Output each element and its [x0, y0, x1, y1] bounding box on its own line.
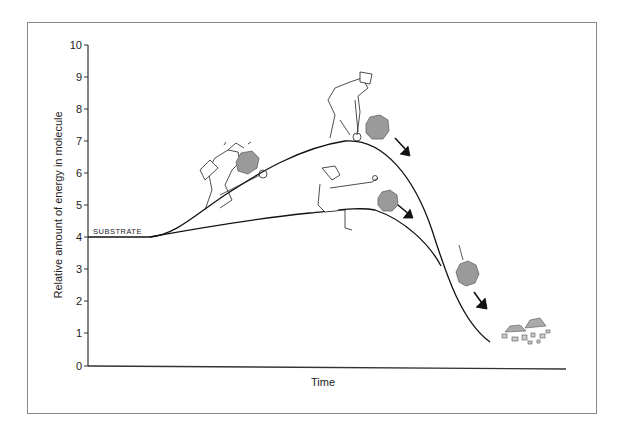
energy-diagram: 10 9 8 7 6 5 4 3 2 1 0 Relative amount o…	[0, 0, 625, 427]
falling-boulder-illustration	[456, 245, 487, 309]
substrate-label: SUBSTRATE	[93, 227, 142, 236]
y-axis-title: Relative amount of energy in molecule	[52, 111, 64, 298]
x-axis	[88, 366, 566, 369]
svg-text:5: 5	[76, 199, 82, 211]
svg-text:10: 10	[70, 39, 82, 51]
man-sitting-illustration	[318, 166, 413, 230]
svg-text:7: 7	[76, 135, 82, 147]
svg-text:4: 4	[76, 231, 82, 243]
x-axis-title: Time	[311, 376, 335, 388]
svg-text:1: 1	[76, 327, 82, 339]
svg-text:0: 0	[76, 360, 82, 372]
y-tick-labels: 10 9 8 7 6 5 4 3 2 1 0	[70, 39, 82, 372]
svg-text:2: 2	[76, 295, 82, 307]
svg-text:8: 8	[76, 103, 82, 115]
man-at-hilltop-illustration	[328, 72, 410, 156]
shattered-boulder-illustration	[502, 318, 550, 344]
man-pushing-boulder-illustration	[200, 142, 267, 210]
svg-text:9: 9	[76, 71, 82, 83]
svg-text:3: 3	[76, 263, 82, 275]
svg-text:6: 6	[76, 167, 82, 179]
